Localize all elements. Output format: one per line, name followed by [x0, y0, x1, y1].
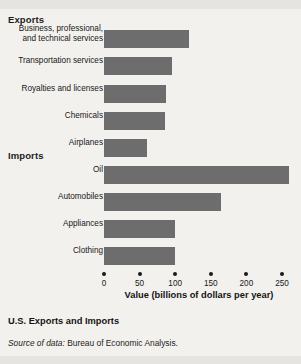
figure-caption-title: U.S. Exports and Imports — [8, 316, 119, 326]
x-axis-tick-dot — [138, 272, 142, 276]
x-axis-tick-dot — [209, 272, 213, 276]
bar-value — [104, 220, 175, 238]
bar-label: Airplanes — [3, 138, 103, 148]
panel-bottom-band — [0, 356, 301, 364]
bar-label: Appliances — [3, 219, 103, 229]
bar-label: Automobiles — [3, 192, 103, 202]
bar-row-automobiles: Automobiles — [0, 192, 301, 212]
x-axis-tick-dot — [244, 272, 248, 276]
x-axis-tick-dot — [102, 272, 106, 276]
bar-label: Royalties and licenses — [3, 84, 103, 94]
bar-value — [104, 112, 165, 130]
x-axis-tick-label: 200 — [231, 279, 261, 288]
bar-row-clothing: Clothing — [0, 246, 301, 266]
bar-row-airplanes: Airplanes — [0, 138, 301, 158]
bar-value — [104, 166, 289, 184]
bar-row-transportation-services: Transportation services — [0, 56, 301, 76]
bar-label: Chemicals — [3, 111, 103, 121]
x-axis-tick-label: 50 — [125, 279, 155, 288]
bar-row-royalties-and-licenses: Royalties and licenses — [0, 84, 301, 104]
x-axis-tick-label: 0 — [89, 279, 119, 288]
x-axis-tick-dot — [280, 272, 284, 276]
bar-value — [104, 85, 166, 103]
bar-label: Transportation services — [3, 56, 103, 66]
x-axis-title: Value (billions of dollars per year) — [104, 290, 294, 300]
bar-row-chemicals: Chemicals — [0, 111, 301, 131]
bar-row-business-services: Business, professional, and technical se… — [0, 29, 301, 49]
bar-value — [104, 57, 172, 75]
bar-value — [104, 139, 147, 157]
bar-label: Clothing — [3, 246, 103, 256]
x-axis-tick-label: 250 — [267, 279, 297, 288]
bar-row-oil: Oil — [0, 165, 301, 185]
figure-source-note: Source of data: Bureau of Economic Analy… — [8, 338, 178, 348]
source-text: Bureau of Economic Analysis. — [65, 338, 178, 348]
x-axis-tick-marks — [0, 272, 301, 278]
bar-value — [104, 30, 189, 48]
x-axis-tick-label: 150 — [196, 279, 226, 288]
bar-chart: Exports Business, professional, and tech… — [0, 0, 301, 300]
bar-label: Oil — [3, 165, 103, 175]
x-axis-tick-label: 100 — [160, 279, 190, 288]
bar-value — [104, 247, 175, 265]
group-heading-imports: Imports — [8, 150, 44, 161]
source-prefix: Source of data: — [8, 338, 65, 348]
bar-label: Business, professional, and technical se… — [3, 24, 103, 43]
figure-panel: Exports Business, professional, and tech… — [0, 0, 301, 364]
bar-row-appliances: Appliances — [0, 219, 301, 239]
x-axis-tick-dot — [173, 272, 177, 276]
bar-value — [104, 193, 221, 211]
